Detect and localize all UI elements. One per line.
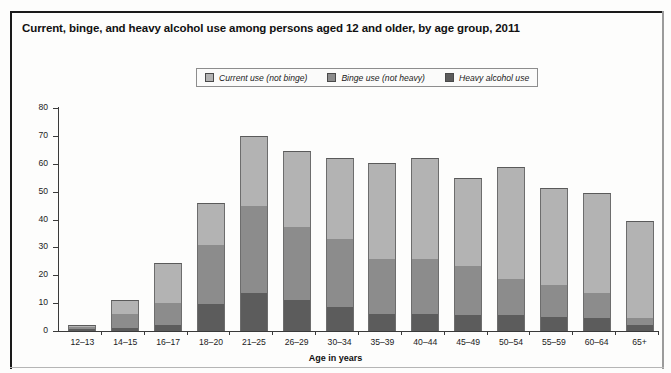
bar-segment-binge — [283, 227, 311, 300]
bar-segment-current — [283, 151, 311, 227]
y-tick-label: 60 — [26, 158, 48, 168]
bar-group — [68, 108, 96, 331]
x-tick-mark — [572, 331, 573, 335]
legend-label: Current use (not binge) — [219, 73, 307, 83]
frame-border-right — [662, 11, 664, 369]
legend-swatch-binge-icon — [327, 73, 336, 82]
y-tick-label: 20 — [26, 269, 48, 279]
bar-segment-binge — [368, 259, 396, 315]
bar-group — [240, 108, 268, 331]
legend-swatch-current-icon — [205, 73, 214, 82]
bar-segment-heavy — [454, 315, 482, 331]
bar-segment-heavy — [197, 304, 225, 331]
legend-swatch-heavy-icon — [445, 73, 454, 82]
bar-segment-binge — [626, 318, 654, 325]
bar-segment-current — [540, 188, 568, 285]
bar-segment-current — [326, 158, 354, 239]
bar-segment-heavy — [111, 328, 139, 331]
plot-area — [58, 108, 658, 331]
bar-group — [411, 108, 439, 331]
bar-segment-heavy — [326, 307, 354, 331]
y-tick-label: 80 — [26, 102, 48, 112]
y-tick-label: 30 — [26, 241, 48, 251]
x-tick-mark — [658, 331, 659, 335]
x-tick-label: 65+ — [615, 337, 665, 347]
x-axis-title: Age in years — [0, 353, 671, 363]
bar-group — [368, 108, 396, 331]
x-tick-mark — [101, 331, 102, 335]
bar-group — [326, 108, 354, 331]
bar-segment-heavy — [411, 314, 439, 331]
x-tick-mark — [529, 331, 530, 335]
bar-group — [583, 108, 611, 331]
bar-segment-current — [197, 203, 225, 245]
bar-group — [540, 108, 568, 331]
bar-segment-current — [411, 158, 439, 259]
x-tick-mark — [272, 331, 273, 335]
chart-title: Current, binge, and heavy alcohol use am… — [22, 22, 642, 34]
x-tick-mark — [444, 331, 445, 335]
bar-segment-heavy — [583, 318, 611, 331]
frame-border-bottom — [10, 367, 664, 368]
bar-segment-heavy — [540, 317, 568, 331]
bar-segment-binge — [240, 206, 268, 293]
bar-segment-binge — [326, 239, 354, 307]
x-tick-mark — [315, 331, 316, 335]
bar-segment-binge — [540, 285, 568, 317]
bar-segment-heavy — [497, 315, 525, 331]
y-tick-label: 70 — [26, 130, 48, 140]
bar-segment-current — [626, 221, 654, 318]
x-tick-mark — [229, 331, 230, 335]
bar-segment-binge — [497, 279, 525, 315]
y-tick-label: 50 — [26, 186, 48, 196]
bar-segment-current — [68, 325, 96, 327]
legend-item-heavy: Heavy alcohol use — [445, 73, 529, 83]
legend-label: Binge use (not heavy) — [341, 73, 425, 83]
bar-segment-heavy — [626, 325, 654, 331]
legend-label: Heavy alcohol use — [459, 73, 529, 83]
bar-segment-binge — [454, 266, 482, 315]
bar-segment-heavy — [154, 325, 182, 331]
bar-segment-heavy — [283, 300, 311, 331]
x-tick-mark — [144, 331, 145, 335]
chart-legend: Current use (not binge)Binge use (not he… — [196, 68, 538, 87]
bar-group — [283, 108, 311, 331]
bar-group — [626, 108, 654, 331]
bar-group — [154, 108, 182, 331]
x-tick-mark — [358, 331, 359, 335]
frame-border-left — [10, 11, 12, 369]
legend-item-binge: Binge use (not heavy) — [327, 73, 425, 83]
x-tick-mark — [615, 331, 616, 335]
bar-segment-binge — [111, 314, 139, 328]
bar-segment-current — [154, 263, 182, 303]
bar-segment-heavy — [240, 293, 268, 331]
bar-group — [111, 108, 139, 331]
bar-segment-binge — [411, 259, 439, 314]
y-tick-label: 10 — [26, 297, 48, 307]
bar-segment-binge — [583, 293, 611, 318]
bar-group — [497, 108, 525, 331]
bar-segment-current — [583, 193, 611, 294]
x-tick-mark — [487, 331, 488, 335]
bar-segment-binge — [197, 245, 225, 304]
figure-panel: Current, binge, and heavy alcohol use am… — [0, 0, 671, 373]
bar-segment-heavy — [368, 314, 396, 331]
x-tick-mark — [401, 331, 402, 335]
bar-segment-binge — [68, 327, 96, 330]
bar-segment-current — [368, 163, 396, 259]
bar-segment-current — [454, 178, 482, 266]
bar-group — [454, 108, 482, 331]
y-tick-label: 0 — [26, 325, 48, 335]
bar-segment-binge — [154, 303, 182, 325]
y-tick-mark — [53, 331, 58, 332]
bar-segment-heavy — [68, 329, 96, 331]
bar-segment-current — [111, 300, 139, 313]
bar-segment-current — [497, 167, 525, 279]
y-tick-label: 40 — [26, 214, 48, 224]
frame-border-top — [10, 11, 664, 13]
x-tick-mark — [187, 331, 188, 335]
bar-group — [197, 108, 225, 331]
legend-item-current: Current use (not binge) — [205, 73, 307, 83]
bar-segment-current — [240, 136, 268, 206]
